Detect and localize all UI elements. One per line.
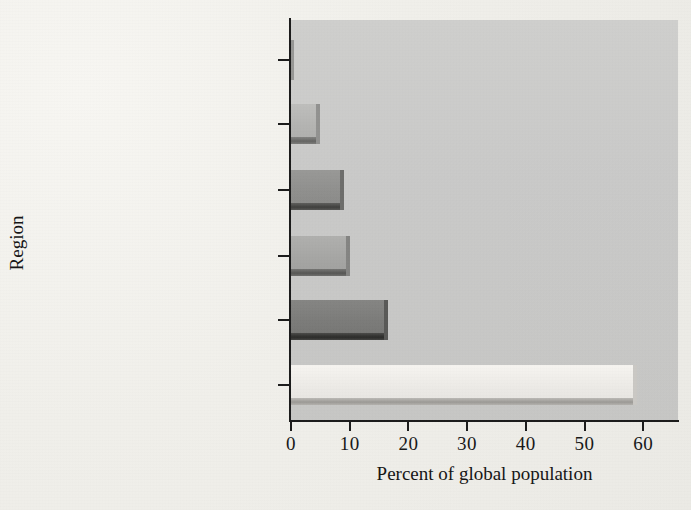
x-tick-60 xyxy=(642,422,644,431)
bar-right-bevel xyxy=(340,170,344,210)
y-axis-line xyxy=(289,18,291,422)
bar-oceania xyxy=(291,40,294,80)
y-tick-0 xyxy=(278,59,290,61)
x-tick-0 xyxy=(290,422,292,431)
x-tick-label-60: 60 xyxy=(623,433,663,455)
x-axis-line xyxy=(289,420,679,422)
bar-right-bevel xyxy=(633,365,637,405)
x-tick-label-20: 20 xyxy=(388,433,428,455)
bar-bottom-bevel xyxy=(291,203,344,210)
y-axis-title: Region xyxy=(6,198,28,288)
x-tick-label-50: 50 xyxy=(565,433,605,455)
x-tick-40 xyxy=(525,422,527,431)
plot-area xyxy=(291,20,678,420)
x-tick-label-10: 10 xyxy=(330,433,370,455)
x-tick-30 xyxy=(466,422,468,431)
bar-europe xyxy=(291,236,350,276)
bar-bottom-bevel xyxy=(291,333,388,340)
x-tick-10 xyxy=(349,422,351,431)
x-axis-title: Percent of global population xyxy=(291,463,678,485)
y-tick-1 xyxy=(278,123,290,125)
y-tick-5 xyxy=(278,384,290,386)
y-axis-tick-labels: OceaniaNorth AmericaSouth & Central Amer… xyxy=(0,0,274,510)
bar-south-central-america xyxy=(291,170,344,210)
x-tick-label-40: 40 xyxy=(506,433,546,455)
x-tick-50 xyxy=(584,422,586,431)
bar-right-bevel xyxy=(384,300,388,340)
chart-page: 0102030405060 OceaniaNorth AmericaSouth … xyxy=(0,0,691,510)
y-tick-2 xyxy=(278,189,290,191)
bar-right-bevel xyxy=(346,236,350,276)
bar-asia xyxy=(291,365,637,405)
y-tick-4 xyxy=(278,319,290,321)
x-tick-label-0: 0 xyxy=(271,433,311,455)
bar-bottom-bevel xyxy=(291,269,350,276)
bar-africa xyxy=(291,300,388,340)
x-tick-label-30: 30 xyxy=(447,433,487,455)
plot-texture-overlay xyxy=(291,20,678,420)
y-tick-3 xyxy=(278,255,290,257)
x-tick-20 xyxy=(407,422,409,431)
bar-north-america xyxy=(291,104,320,144)
bar-right-bevel xyxy=(316,104,320,144)
bar-bottom-bevel xyxy=(291,398,637,405)
